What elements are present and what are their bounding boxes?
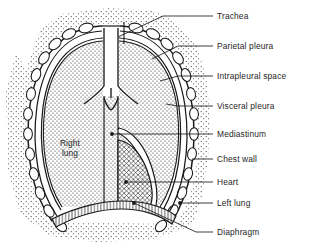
callout-label-visceral_pleura: Visceral pleura	[217, 102, 275, 111]
callout-label-mediastinum: Mediastinum	[217, 130, 266, 139]
callout-label-parietal_pleura: Parietal pleura	[217, 42, 273, 51]
callout-label-trachea: Trachea	[217, 12, 248, 21]
inner-label-right_lung: Right lung	[48, 139, 92, 158]
thorax-anatomy-figure: TracheaParietal pleuraIntrapleural space…	[0, 0, 312, 250]
callout-label-diaphragm: Diaphragm	[217, 228, 259, 237]
callout-label-chest_wall: Chest wall	[217, 155, 257, 164]
thorax-diagram	[0, 0, 312, 250]
mediastinum	[104, 96, 118, 206]
endpoint-dot-left_lung	[178, 201, 182, 205]
callout-label-left_lung: Left lung	[217, 199, 250, 208]
endpoint-dot-mediastinum	[110, 132, 114, 136]
callout-label-intrapleural_space: Intrapleural space	[217, 72, 286, 81]
callout-label-heart: Heart	[217, 178, 238, 187]
endpoint-dot-diaphragm	[132, 201, 136, 205]
endpoint-dot-heart	[124, 180, 128, 184]
